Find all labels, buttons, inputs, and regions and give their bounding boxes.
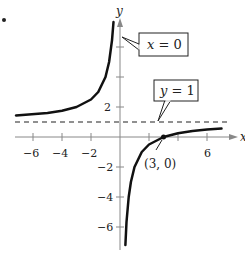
curve-right-branch <box>125 129 221 246</box>
curve-left-branch <box>16 22 114 115</box>
callout-pointer-horizontal <box>158 100 171 121</box>
tick-label-x-m4: −4 <box>52 147 68 160</box>
tick-label-y-m6: −6 <box>97 221 113 234</box>
y-axis-arrow <box>117 18 123 27</box>
callout-text-vertical: x = 0 <box>147 37 182 52</box>
tick-label-x-m6: −6 <box>23 147 39 160</box>
callout-pointer-vertical <box>122 37 139 50</box>
bullet-dot <box>2 18 6 22</box>
x-intercept-point <box>161 135 166 140</box>
tick-label-x-m2: −2 <box>81 147 97 160</box>
tick-label-x-6: 6 <box>204 147 211 160</box>
y-axis-label: y <box>115 4 123 18</box>
tick-label-y-2: 2 <box>104 101 111 114</box>
callout-text-horizontal: y = 1 <box>159 83 195 98</box>
tick-label-y-m2: −2 <box>97 161 113 174</box>
x-axis-label: x <box>240 130 245 144</box>
point-label: (3, 0) <box>144 157 176 171</box>
x-axis-arrow <box>229 134 238 140</box>
graph: x y −6 −4 −2 6 2 −2 −4 −6 (3, 0) x = 0 <box>0 0 245 257</box>
tick-label-y-m4: −4 <box>97 191 113 204</box>
